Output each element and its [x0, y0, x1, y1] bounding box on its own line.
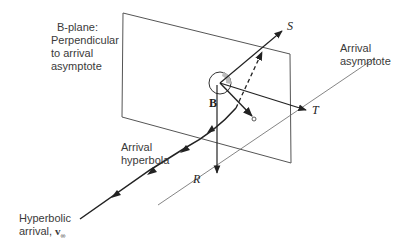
- r-axis-label: R: [193, 172, 200, 187]
- arrival-asymptote-label: Arrival asymptote: [340, 42, 391, 68]
- s-axis-label: S: [287, 19, 293, 34]
- t-axis-label: T: [312, 103, 319, 118]
- arrival-asymptote-line: [158, 58, 375, 205]
- arrival-hyperbola-label: Arrival hyperbola: [121, 141, 169, 167]
- b-plane-label: B-plane: Perpendicular to arrival asympt…: [51, 21, 119, 73]
- b-vector-tip: [252, 117, 256, 121]
- hyperbolic-arrival-label: Hyperbolic arrival, v∞: [19, 212, 71, 242]
- trajectory-arrow: [207, 125, 215, 133]
- b-vector-label: B: [209, 96, 217, 111]
- dashed-continuation: [236, 52, 262, 108]
